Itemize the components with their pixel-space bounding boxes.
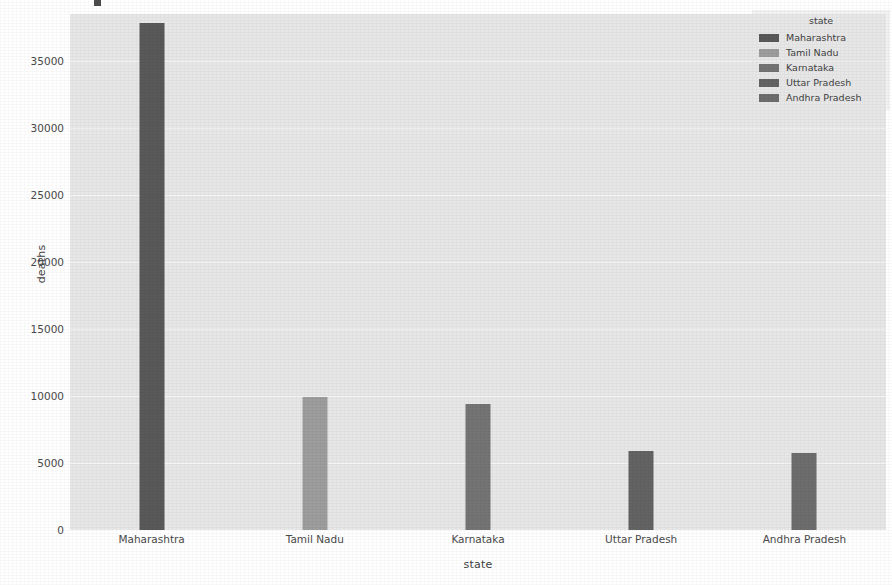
x-axis-label: state	[70, 558, 886, 571]
legend-item-label: Maharashtra	[786, 32, 846, 43]
y-tick-label: 35000	[4, 55, 64, 67]
legend-swatch-icon	[759, 49, 779, 57]
legend: state MaharashtraTamil NaduKarnatakaUtta…	[752, 10, 890, 110]
legend-swatch-icon	[759, 34, 779, 42]
legend-item-label: Karnataka	[786, 62, 834, 73]
bar-uttar-pradesh[interactable]	[629, 451, 654, 530]
x-tick-label: Uttar Pradesh	[561, 533, 721, 545]
legend-item-maharashtra[interactable]: Maharashtra	[755, 30, 887, 45]
y-tick-label: 15000	[4, 323, 64, 335]
gridline	[70, 128, 886, 129]
bar-maharashtra[interactable]	[139, 23, 164, 530]
y-tick-label: 20000	[4, 256, 64, 268]
y-tick-label: 5000	[4, 457, 64, 469]
legend-swatch-icon	[759, 64, 779, 72]
y-tick-label: 30000	[4, 122, 64, 134]
gridline	[70, 262, 886, 263]
y-axis-tick-labels: 05000100001500020000250003000035000	[0, 0, 64, 585]
legend-item-andhra-pradesh[interactable]: Andhra Pradesh	[755, 90, 887, 105]
x-tick-label: Tamil Nadu	[235, 533, 395, 545]
gridline	[70, 329, 886, 330]
y-tick-label: 0	[4, 524, 64, 536]
legend-entries: MaharashtraTamil NaduKarnatakaUttar Prad…	[755, 30, 887, 105]
y-tick-label: 25000	[4, 189, 64, 201]
scan-artifact-speck	[94, 0, 101, 6]
bar-andhra-pradesh[interactable]	[792, 453, 817, 530]
legend-item-uttar-pradesh[interactable]: Uttar Pradesh	[755, 75, 887, 90]
x-tick-label: Maharashtra	[72, 533, 232, 545]
y-tick-label: 10000	[4, 390, 64, 402]
x-tick-label: Karnataka	[398, 533, 558, 545]
bar-chart-figure: deaths 050001000015000200002500030000350…	[0, 0, 892, 585]
legend-swatch-icon	[759, 94, 779, 102]
legend-title: state	[755, 15, 887, 26]
gridline	[70, 396, 886, 397]
bar-karnataka[interactable]	[466, 404, 491, 530]
legend-item-karnataka[interactable]: Karnataka	[755, 60, 887, 75]
x-axis-tick-labels: MaharashtraTamil NaduKarnatakaUttar Prad…	[70, 533, 886, 553]
legend-swatch-icon	[759, 79, 779, 87]
legend-item-label: Uttar Pradesh	[786, 77, 851, 88]
legend-item-label: Andhra Pradesh	[786, 92, 861, 103]
legend-item-label: Tamil Nadu	[786, 47, 839, 58]
legend-item-tamil-nadu[interactable]: Tamil Nadu	[755, 45, 887, 60]
bar-tamil-nadu[interactable]	[302, 397, 327, 530]
x-tick-label: Andhra Pradesh	[724, 533, 884, 545]
gridline	[70, 195, 886, 196]
